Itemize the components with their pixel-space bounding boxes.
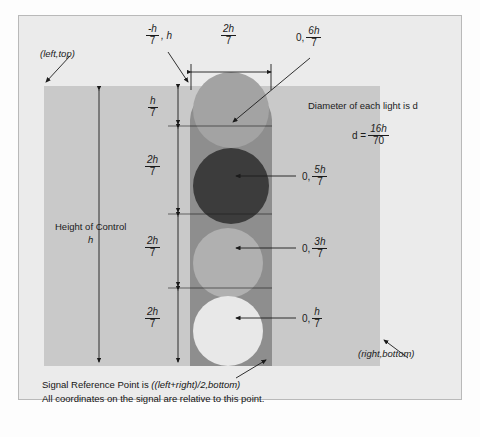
callout-lamp-red: 0, 5h 7 — [302, 165, 327, 187]
callout-lamp-green: 0, h 7 — [302, 307, 322, 329]
width-numerator: 2h — [221, 24, 236, 36]
callout-lamp-amber: 0, 3h 7 — [302, 237, 327, 259]
diagram-canvas: (left,top) (right,bottom) -h 7 , h 2h 7 … — [0, 0, 480, 437]
footer-note-line1-italic: ((left+right)/2,bottom) — [151, 379, 240, 390]
lamp-amber — [193, 228, 263, 298]
callout-green-numerator: h — [312, 307, 322, 319]
diameter-numerator: 16h — [368, 124, 389, 136]
segment-label-4: 2h 7 — [145, 307, 160, 329]
segment-3-denominator: 7 — [145, 248, 160, 259]
width-denominator: 7 — [221, 36, 236, 47]
footer-note-line2: All coordinates on the signal are relati… — [42, 393, 264, 404]
segment-1-numerator: h — [148, 96, 158, 108]
height-of-control-label: Height of Control h — [55, 221, 126, 247]
callout-green-prefix: 0, — [302, 313, 310, 324]
origin-suffix: , h — [161, 30, 172, 41]
origin-denominator: 7 — [146, 36, 159, 47]
callout-red-denominator: 7 — [312, 177, 327, 188]
segment-4-numerator: 2h — [145, 307, 160, 319]
segment-2-denominator: 7 — [145, 167, 160, 178]
diameter-denominator: 70 — [368, 136, 389, 147]
callout-top-denominator: 7 — [306, 38, 321, 49]
callout-red-prefix: 0, — [302, 171, 310, 182]
segment-3-numerator: 2h — [145, 236, 160, 248]
callout-amber-prefix: 0, — [302, 243, 310, 254]
callout-green-denominator: 7 — [312, 319, 322, 330]
diameter-formula-lhs: d = — [352, 130, 366, 141]
segment-2-numerator: 2h — [145, 155, 160, 167]
segment-label-3: 2h 7 — [145, 236, 160, 258]
callout-red-numerator: 5h — [312, 165, 327, 177]
segment-1-denominator: 7 — [148, 108, 158, 119]
label-left-top: (left,top) — [40, 48, 75, 61]
callout-top-numerator: 6h — [306, 26, 321, 38]
height-of-control-line2: h — [88, 234, 93, 245]
segment-label-2: 2h 7 — [145, 155, 160, 177]
label-right-bottom: (right,bottom) — [358, 348, 415, 361]
diameter-note-text: Diameter of each light is d — [308, 100, 418, 113]
origin-numerator: -h — [146, 24, 159, 36]
height-of-control-line1: Height of Control — [55, 221, 126, 232]
footer-note: Signal Reference Point is ((left+right)/… — [42, 378, 264, 406]
label-housing-origin: -h 7 , h — [146, 24, 172, 46]
lamp-top — [193, 72, 269, 148]
lamp-red — [193, 148, 269, 224]
lamp-green — [193, 296, 263, 366]
callout-lamp-top: 0, 6h 7 — [296, 26, 321, 48]
footer-note-line1-plain: Signal Reference Point is — [42, 379, 151, 390]
segment-4-denominator: 7 — [145, 319, 160, 330]
callout-amber-numerator: 3h — [312, 237, 327, 249]
diameter-formula: d = 16h 70 — [352, 124, 389, 146]
callout-amber-denominator: 7 — [312, 249, 327, 260]
callout-top-prefix: 0, — [296, 32, 304, 43]
signal-housing — [190, 86, 272, 366]
segment-label-1: h 7 — [148, 96, 158, 118]
label-housing-width: 2h 7 — [221, 24, 236, 46]
